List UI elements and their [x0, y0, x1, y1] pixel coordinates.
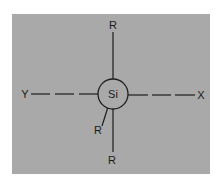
label-bottom-r: R [108, 154, 116, 166]
label-y: Y [21, 88, 29, 100]
label-top-r: R [109, 19, 117, 31]
silicon-bond-diagram: Si R R R Y X [0, 0, 219, 181]
label-x: X [197, 89, 205, 101]
label-diagonal-r: R [94, 124, 102, 136]
silicon-atom-label: Si [108, 88, 118, 100]
